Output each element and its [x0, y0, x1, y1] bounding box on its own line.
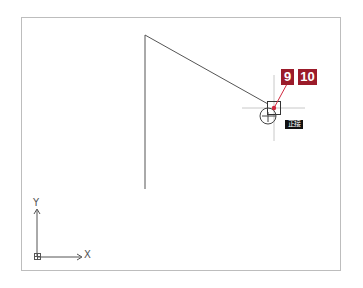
ucs-x-label: X [84, 249, 91, 260]
ucs-icon [34, 209, 82, 260]
drawing-canvas[interactable] [0, 0, 363, 288]
callout-badge-9: 9 [281, 69, 294, 85]
drawn-polyline[interactable] [145, 35, 268, 189]
callout-badge-10: 10 [298, 69, 317, 85]
ucs-y-label: Y [33, 197, 39, 208]
snap-tooltip-tangent: 正接 [285, 120, 303, 129]
callout-pointer-dot [272, 106, 276, 110]
